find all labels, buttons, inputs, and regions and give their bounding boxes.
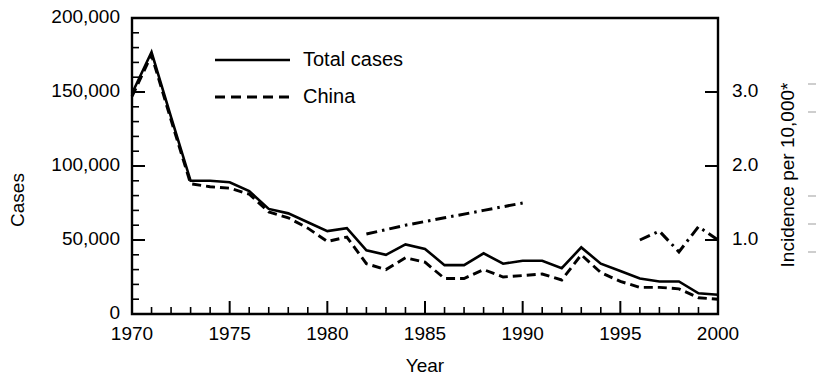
left-tick-label: 50,000 bbox=[62, 228, 120, 249]
right-tick-label: 3.0 bbox=[732, 80, 758, 101]
right-axis-tick-labels: 3.02.01.0 bbox=[732, 80, 758, 249]
bottom-axis-ticks bbox=[132, 301, 718, 314]
right-tick-label: 1.0 bbox=[732, 228, 758, 249]
bottom-tick-label: 2000 bbox=[697, 323, 739, 344]
legend-label-china: China bbox=[303, 85, 356, 107]
plot-border bbox=[132, 18, 718, 314]
left-axis-tick-labels: 200,000150,000100,00050,0000 bbox=[51, 6, 120, 323]
bottom-axis-title: Year bbox=[406, 355, 445, 376]
plot-frame bbox=[132, 18, 718, 314]
bottom-tick-label: 1980 bbox=[306, 323, 348, 344]
data-series-group bbox=[132, 52, 718, 299]
series-line-china bbox=[132, 55, 718, 299]
bottom-tick-label: 1985 bbox=[404, 323, 446, 344]
chart-canvas: 200,000150,000100,00050,0000 3.02.01.0 1… bbox=[0, 0, 816, 382]
chart-figure: 200,000150,000100,00050,0000 3.02.01.0 1… bbox=[0, 0, 816, 382]
chart-legend: Total cases China bbox=[215, 48, 403, 107]
bottom-axis-tick-labels: 1970197519801985199019952000 bbox=[111, 323, 739, 344]
bottom-tick-label: 1990 bbox=[502, 323, 544, 344]
left-axis-ticks bbox=[132, 18, 145, 314]
right-axis-title: Incidence per 10,000* bbox=[777, 82, 798, 267]
bottom-tick-label: 1970 bbox=[111, 323, 153, 344]
right-tick-label: 2.0 bbox=[732, 154, 758, 175]
legend-label-total-cases: Total cases bbox=[303, 48, 403, 70]
bottom-tick-label: 1995 bbox=[599, 323, 641, 344]
page-edge-fragments bbox=[808, 84, 816, 252]
left-tick-label: 100,000 bbox=[51, 154, 120, 175]
left-axis-title: Cases bbox=[7, 173, 28, 227]
bottom-tick-label: 1975 bbox=[209, 323, 251, 344]
series-line-total-cases bbox=[132, 52, 718, 295]
annotation-line-incidence-early bbox=[366, 203, 522, 234]
left-tick-label: 0 bbox=[109, 302, 120, 323]
left-tick-label: 200,000 bbox=[51, 6, 120, 27]
left-tick-label: 150,000 bbox=[51, 80, 120, 101]
right-axis-ticks bbox=[705, 92, 718, 240]
